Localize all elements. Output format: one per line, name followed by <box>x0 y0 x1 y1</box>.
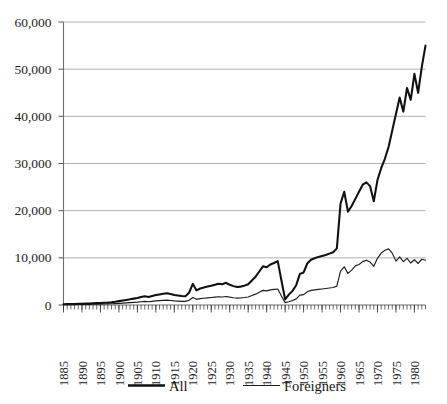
series-all-path <box>64 46 426 305</box>
series-foreigners-path <box>64 249 426 305</box>
x-axis-major-ticks-group <box>64 305 415 313</box>
x-axis-labels-group: 1885189018951900190519101915192019251930… <box>57 361 422 386</box>
x-axis-tick-label: 1910 <box>149 361 163 386</box>
legend-label-foreigners: Foreigners <box>284 378 346 394</box>
x-axis-tick-label: 1935 <box>242 361 256 386</box>
x-axis-tick-label: 1920 <box>186 361 200 386</box>
x-axis-tick-label: 1940 <box>260 361 274 386</box>
x-axis-tick-label: 1980 <box>408 361 422 386</box>
y-axis-tick-label: 10,000 <box>14 250 51 265</box>
y-axis-labels-group: 60,00050,00040,00030,00020,00010,0000 <box>14 15 63 313</box>
x-axis-tick-label: 1975 <box>390 361 404 386</box>
x-axis-tick-label: 1930 <box>223 361 237 386</box>
x-axis-tick-label: 1970 <box>371 361 385 386</box>
x-axis-minor-ticks-group <box>64 305 426 310</box>
x-axis-tick-label: 1890 <box>76 361 90 386</box>
y-axis-tick-label: 60,000 <box>14 15 51 30</box>
gridlines-group <box>64 22 426 258</box>
chart-container: 60,00050,00040,00030,00020,00010,0000 18… <box>0 0 447 404</box>
x-axis-tick-label: 1905 <box>131 361 145 386</box>
x-axis-tick-label: 1925 <box>205 361 219 386</box>
x-axis-tick-label: 1965 <box>353 361 367 386</box>
y-axis-tick-label: 40,000 <box>14 109 51 124</box>
x-axis-tick-label: 1885 <box>57 361 71 386</box>
y-axis-tick-label: 30,000 <box>14 156 51 171</box>
y-axis-tick-label: 50,000 <box>14 62 51 77</box>
x-axis-tick-label: 1900 <box>113 361 127 386</box>
y-axis-tick-label: 20,000 <box>14 203 51 218</box>
series-line-foreigners <box>64 249 426 305</box>
y-axis-tick-label: 0 <box>45 298 52 313</box>
series-line-all <box>64 46 426 305</box>
line-chart: 60,00050,00040,00030,00020,00010,0000 18… <box>0 0 447 404</box>
x-axis-tick-label: 1895 <box>94 361 108 386</box>
legend-label-all: All <box>169 378 188 394</box>
